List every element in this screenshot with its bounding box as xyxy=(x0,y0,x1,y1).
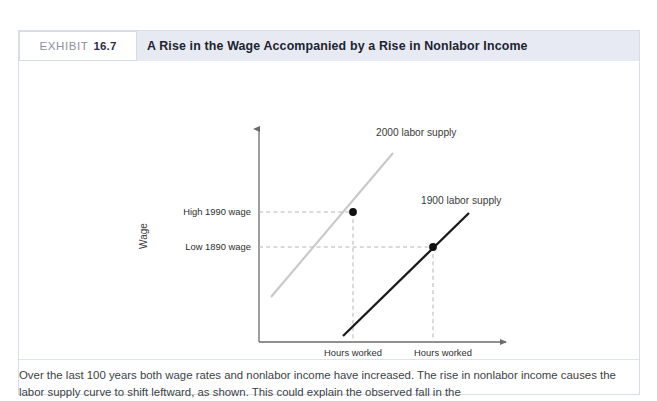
figure-area: 2000 labor supply 1900 labor supply High… xyxy=(19,61,639,359)
exhibit-label: EXHIBIT xyxy=(39,40,88,52)
x-tick-label-hours-1990-line1: Hours worked xyxy=(324,347,382,358)
x-tick-label-hours-1890-line1: Hours worked xyxy=(414,347,472,358)
curve-2000-labor-supply xyxy=(271,153,393,297)
labor-supply-chart: 2000 labor supply 1900 labor supply High… xyxy=(19,61,639,359)
equilibrium-dot-1890 xyxy=(429,243,437,251)
exhibit-number-tag: EXHIBIT 16.7 xyxy=(19,31,137,61)
exhibit-header: EXHIBIT 16.7 A Rise in the Wage Accompan… xyxy=(19,31,639,61)
exhibit-number: 16.7 xyxy=(93,40,116,52)
caption-separator xyxy=(19,359,639,360)
curve-label-1900-labor-supply: 1900 labor supply xyxy=(421,195,502,206)
equilibrium-dot-1990 xyxy=(349,208,357,216)
curve-1900-labor-supply xyxy=(343,213,469,336)
y-axis-label: Wage xyxy=(138,223,149,249)
y-tick-label-low-1890-wage: Low 1890 wage xyxy=(185,241,251,252)
page-title: A Rise in the Wage Accompanied by a Rise… xyxy=(147,31,528,61)
curve-label-2000-labor-supply: 2000 labor supply xyxy=(376,127,457,138)
exhibit-card: EXHIBIT 16.7 A Rise in the Wage Accompan… xyxy=(18,30,640,395)
exhibit-caption: Over the last 100 years both wage rates … xyxy=(19,367,633,400)
y-tick-label-high-1990-wage: High 1990 wage xyxy=(183,206,251,217)
